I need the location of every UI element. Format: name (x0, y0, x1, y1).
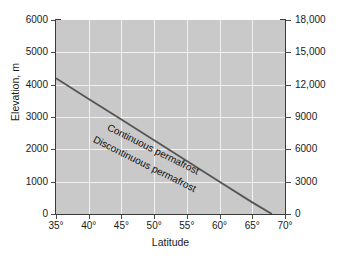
tick-label-right: 15,000 (295, 47, 326, 57)
tick-label-bottom: 35° (48, 221, 63, 231)
tick-label-bottom: 65° (245, 221, 260, 231)
tick-mark-left (51, 182, 56, 183)
tick-label-bottom: 40° (81, 221, 96, 231)
tick-mark-left (51, 52, 56, 53)
tick-label-bottom: 55° (179, 221, 194, 231)
tick-mark-left (51, 117, 56, 118)
tick-label-left: 4000 (26, 80, 48, 90)
tick-mark-right (286, 149, 291, 150)
tick-label-bottom: 70° (277, 221, 292, 231)
tick-mark-right (286, 117, 291, 118)
x-axis-title: Latitude (56, 236, 285, 248)
tick-mark-right (286, 85, 291, 86)
tick-mark-bottom (89, 215, 90, 219)
tick-label-bottom: 60° (212, 221, 227, 231)
tick-mark-right (286, 52, 291, 53)
tick-mark-right (286, 20, 291, 21)
plot-area: Continuous permafrost Discontinuous perm… (56, 20, 285, 214)
tick-mark-bottom (154, 215, 155, 219)
tick-label-bottom: 45° (114, 221, 129, 231)
tick-mark-bottom (121, 215, 122, 219)
tick-label-right: 6000 (295, 144, 317, 154)
tick-label-right: 0 (295, 209, 301, 219)
tick-label-left: 6000 (26, 15, 48, 25)
data-line-permafrost-boundary (56, 20, 285, 214)
tick-mark-bottom (220, 215, 221, 219)
permafrost-elevation-latitude-chart: Continuous permafrost Discontinuous perm… (0, 0, 337, 256)
tick-mark-left (51, 149, 56, 150)
tick-label-right: 12,000 (295, 80, 326, 90)
tick-mark-right (286, 182, 291, 183)
tick-label-right: 18,000 (295, 15, 326, 25)
tick-label-left: 1000 (26, 177, 48, 187)
tick-mark-left (51, 85, 56, 86)
tick-label-bottom: 50° (147, 221, 162, 231)
tick-label-right: 3000 (295, 177, 317, 187)
tick-label-left: 3000 (26, 112, 48, 122)
tick-label-right: 9000 (295, 112, 317, 122)
tick-label-left: 0 (42, 209, 48, 219)
y-axis-title: Elevation, m (9, 42, 21, 142)
tick-label-left: 2000 (26, 144, 48, 154)
tick-mark-bottom (56, 215, 57, 219)
tick-mark-right (286, 214, 291, 215)
tick-mark-bottom (285, 215, 286, 219)
tick-mark-bottom (187, 215, 188, 219)
tick-mark-bottom (252, 215, 253, 219)
tick-label-left: 5000 (26, 47, 48, 57)
tick-mark-left (51, 20, 56, 21)
